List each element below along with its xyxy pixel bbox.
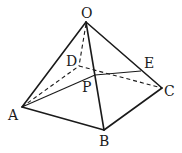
edge-BC bbox=[104, 88, 162, 130]
label-O: O bbox=[81, 5, 92, 21]
label-A: A bbox=[7, 107, 19, 123]
edge-OB bbox=[86, 22, 104, 130]
label-C: C bbox=[164, 83, 175, 99]
edge-AD-hidden bbox=[22, 66, 79, 107]
label-P: P bbox=[82, 79, 91, 95]
label-D: D bbox=[66, 53, 77, 69]
label-E: E bbox=[144, 55, 154, 71]
edge-AB bbox=[22, 107, 104, 130]
pyramid-diagram: O D E P C A B bbox=[0, 0, 182, 153]
label-B: B bbox=[99, 133, 109, 149]
